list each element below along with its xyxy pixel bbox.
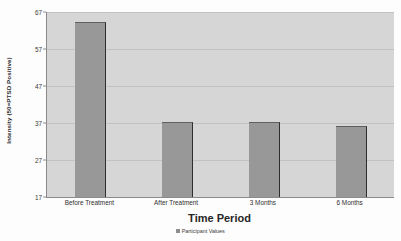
bar-chart: Intensity (50=PTSD Positive) 17273747576… bbox=[0, 0, 401, 241]
x-axis-tick-label: After Treatment bbox=[154, 199, 198, 206]
y-axis-tick-label: 67 bbox=[35, 9, 42, 16]
x-axis-tick-labels: Before TreatmentAfter Treatment3 Months6… bbox=[46, 199, 393, 213]
legend-label: Participant Values bbox=[182, 228, 225, 234]
legend: Participant Values bbox=[0, 228, 401, 234]
y-axis-tick-label: 17 bbox=[35, 194, 42, 201]
plot-area bbox=[46, 12, 394, 198]
bar bbox=[75, 22, 106, 197]
y-axis-tick-label: 57 bbox=[35, 46, 42, 53]
y-axis-title: Intensity (50=PTSD Positive) bbox=[0, 0, 16, 200]
bar bbox=[336, 126, 367, 197]
y-axis-tick-label: 27 bbox=[35, 157, 42, 164]
x-axis-title: Time Period bbox=[46, 212, 393, 224]
y-axis-tick-label: 37 bbox=[35, 120, 42, 127]
legend-swatch-icon bbox=[176, 229, 180, 233]
y-axis-tick-labels: 172737475767 bbox=[16, 12, 46, 197]
x-axis-tick-label: 6 Months bbox=[336, 199, 362, 206]
bars-group bbox=[47, 12, 394, 197]
x-axis-tick-label: Before Treatment bbox=[65, 199, 114, 206]
bar bbox=[162, 122, 193, 197]
y-axis-title-text: Intensity (50=PTSD Positive) bbox=[5, 57, 12, 144]
bar bbox=[249, 122, 280, 197]
x-axis-tick-label: 3 Months bbox=[250, 199, 276, 206]
y-axis-tick-label: 47 bbox=[35, 83, 42, 90]
